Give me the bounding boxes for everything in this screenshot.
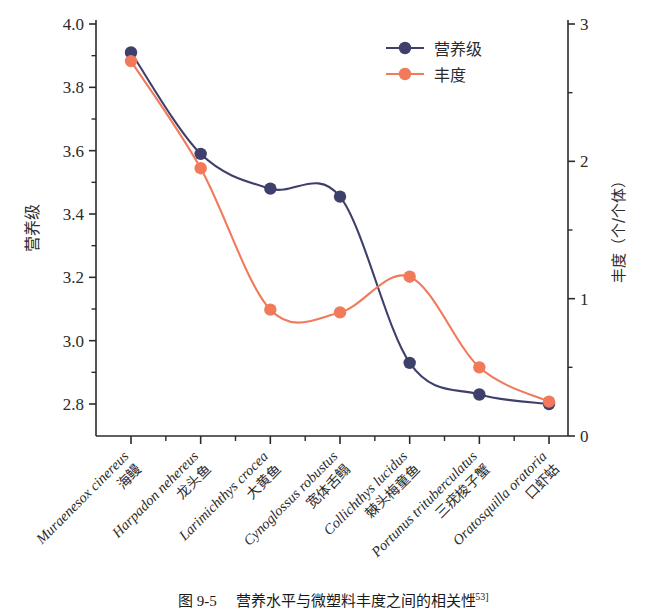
left-tick-label: 2.8 (63, 395, 84, 414)
left-tick-label: 3.2 (63, 268, 84, 287)
left-tick-label: 3.4 (63, 205, 85, 224)
data-point-marker (125, 55, 137, 67)
series-abundance (125, 55, 555, 408)
chart-legend: 营养级丰度 (386, 40, 482, 85)
data-point-marker (403, 270, 415, 282)
data-point-marker (264, 182, 276, 194)
series-trophic-level (125, 46, 555, 410)
legend-item: 营养级 (386, 40, 482, 59)
left-axis-title: 营养级 (23, 204, 42, 252)
left-tick-label: 3.6 (63, 142, 84, 161)
data-point-marker (194, 148, 206, 160)
x-category-label: Muraenesox cinereus海鳗 (32, 448, 145, 561)
data-point-marker (543, 395, 555, 407)
chart-svg: 4.03.83.63.43.23.02.8 3210 营养级 丰度（个/个体） … (0, 0, 649, 612)
right-tick-label: 2 (580, 152, 589, 171)
x-axis-ticks (131, 436, 549, 444)
left-tick-label: 3.8 (63, 78, 84, 97)
right-axis-title: 丰度（个/个体） (610, 173, 628, 283)
right-tick-label: 3 (580, 15, 589, 34)
data-point-marker (334, 190, 346, 202)
series-line (131, 61, 549, 402)
plot-axes (96, 20, 568, 436)
caption-figure-number: 图 9-5 (178, 593, 217, 609)
caption-reference: [53] (472, 591, 489, 602)
left-tick-label: 4.0 (63, 15, 84, 34)
right-axis-ticks: 3210 (568, 15, 589, 446)
left-axis-ticks: 4.03.83.63.43.23.02.8 (63, 15, 96, 414)
data-point-marker (403, 357, 415, 369)
legend-marker (399, 42, 411, 54)
data-point-marker (334, 306, 346, 318)
data-point-marker (473, 388, 485, 400)
legend-item: 丰度 (386, 66, 466, 85)
data-point-marker (473, 361, 485, 373)
data-series-layer (125, 46, 555, 410)
series-line (131, 53, 549, 405)
legend-label: 丰度 (434, 66, 466, 85)
data-point-marker (264, 303, 276, 315)
data-point-marker (194, 162, 206, 174)
figure-caption: 图 9-5 营养水平与微塑料丰度之间的相关性 [53] (178, 591, 489, 610)
left-tick-label: 3.0 (63, 332, 84, 351)
right-tick-label: 1 (580, 290, 589, 309)
right-tick-label: 0 (580, 427, 589, 446)
x-axis-labels: Muraenesox cinereus海鳗Harpadon nehereus龙头… (32, 448, 562, 574)
legend-marker (399, 68, 411, 80)
figure-container: 4.03.83.63.43.23.02.8 3210 营养级 丰度（个/个体） … (0, 0, 649, 612)
caption-text: 营养水平与微塑料丰度之间的相关性 (236, 592, 476, 610)
legend-label: 营养级 (434, 40, 482, 59)
